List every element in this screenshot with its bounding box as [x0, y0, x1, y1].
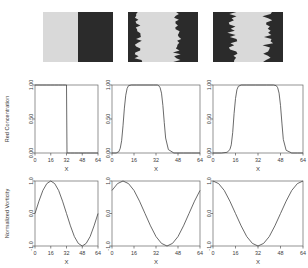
svg-text:0.50: 0.50	[105, 114, 111, 125]
svg-text:16: 16	[48, 250, 54, 256]
svg-text:48: 48	[278, 157, 284, 163]
red-concentration-row: 0163248640.000.501.00XRed Concentration …	[0, 80, 308, 175]
svg-text:X: X	[154, 259, 158, 265]
svg-text:0.0: 0.0	[105, 210, 111, 218]
svg-text:32: 32	[64, 250, 70, 256]
svg-text:16: 16	[131, 250, 137, 256]
svg-text:1.00: 1.00	[206, 80, 212, 90]
svg-text:0.0: 0.0	[28, 210, 34, 218]
svg-text:64: 64	[95, 250, 101, 256]
svg-text:64: 64	[197, 250, 203, 256]
svg-text:32: 32	[153, 157, 159, 163]
svg-text:48: 48	[175, 250, 181, 256]
svg-text:16: 16	[131, 157, 137, 163]
svg-text:0.00: 0.00	[206, 148, 212, 159]
snapshot-panel-1	[43, 12, 113, 62]
svg-text:Normalized Vorticity: Normalized Vorticity	[4, 189, 10, 239]
svg-text:X: X	[64, 166, 68, 172]
svg-text:48: 48	[79, 157, 85, 163]
chart-red-concentration-3: 0163248640.000.501.00X	[205, 80, 307, 175]
figure-panel-grid: 0163248640.000.501.00XRed Concentration …	[0, 0, 308, 268]
svg-text:32: 32	[64, 157, 70, 163]
svg-text:-1.0: -1.0	[28, 241, 34, 250]
svg-text:1.00: 1.00	[28, 80, 34, 90]
svg-text:-1.0: -1.0	[206, 241, 212, 250]
svg-text:X: X	[256, 166, 260, 172]
svg-text:48: 48	[79, 250, 85, 256]
svg-text:1.0: 1.0	[206, 177, 212, 185]
svg-text:Red Concentration: Red Concentration	[4, 96, 10, 143]
snapshot-panel-3	[213, 12, 283, 62]
svg-text:0.00: 0.00	[105, 148, 111, 159]
chart-red-concentration-2: 0163248640.000.501.00X	[104, 80, 204, 175]
svg-text:64: 64	[300, 250, 306, 256]
svg-text:64: 64	[300, 157, 306, 163]
svg-text:X: X	[64, 259, 68, 265]
svg-text:32: 32	[255, 250, 261, 256]
svg-text:32: 32	[153, 250, 159, 256]
svg-text:48: 48	[175, 157, 181, 163]
svg-text:-1.0: -1.0	[105, 241, 111, 250]
snapshot-row	[0, 0, 308, 70]
svg-text:16: 16	[233, 157, 239, 163]
svg-text:16: 16	[48, 157, 54, 163]
svg-text:X: X	[154, 166, 158, 172]
snapshot-panel-2	[128, 12, 198, 62]
normalized-vorticity-row: 016324864-1.00.01.0XNormalized Vorticity…	[0, 176, 308, 268]
svg-text:0.50: 0.50	[206, 114, 212, 125]
svg-text:1.0: 1.0	[28, 177, 34, 185]
svg-text:0.50: 0.50	[28, 114, 34, 125]
svg-text:48: 48	[278, 250, 284, 256]
chart-normalized-vorticity-3: 016324864-1.00.01.0X	[205, 176, 307, 268]
svg-text:16: 16	[233, 250, 239, 256]
svg-text:0.00: 0.00	[28, 148, 34, 159]
chart-red-concentration-1: 0163248640.000.501.00XRed Concentration	[2, 80, 102, 175]
chart-normalized-vorticity-2: 016324864-1.00.01.0X	[104, 176, 204, 268]
svg-text:64: 64	[95, 157, 101, 163]
svg-text:1.0: 1.0	[105, 177, 111, 185]
svg-text:X: X	[256, 259, 260, 265]
chart-normalized-vorticity-1: 016324864-1.00.01.0XNormalized Vorticity	[2, 176, 102, 268]
svg-text:1.00: 1.00	[105, 80, 111, 90]
svg-text:64: 64	[197, 157, 203, 163]
svg-text:0.0: 0.0	[206, 210, 212, 218]
svg-text:32: 32	[255, 157, 261, 163]
